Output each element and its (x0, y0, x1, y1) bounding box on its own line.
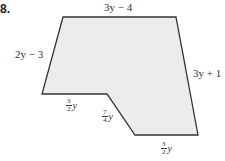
label-right-side: 3y + 1 (193, 67, 221, 79)
label-top-side: 3y − 4 (104, 1, 132, 13)
label-slant-side: 74 y (102, 109, 113, 124)
label-bottom-left-side: 32 y (66, 98, 77, 113)
polygon-figure (0, 0, 225, 161)
label-bottom-right-side: 32 y (161, 141, 172, 156)
label-left-side: 2y − 3 (15, 48, 43, 60)
shaded-polygon (42, 17, 198, 135)
